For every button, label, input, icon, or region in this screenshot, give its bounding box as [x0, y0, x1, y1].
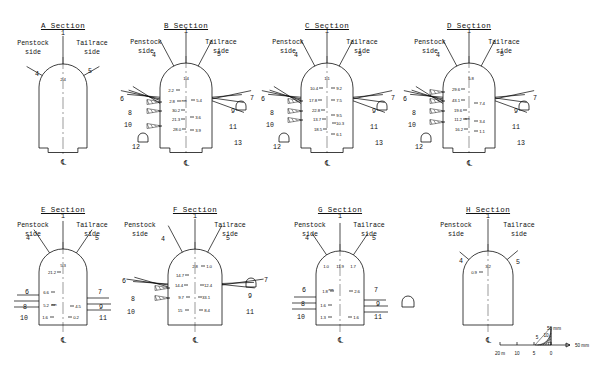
- scale-inner-label-0: 5: [536, 335, 539, 340]
- hatch-line: [548, 330, 551, 345]
- scale-right-label: 50 mm: [575, 343, 589, 348]
- scale-tick-label-1: 10: [514, 351, 519, 356]
- scale-top-label: 50 mm: [547, 326, 561, 331]
- scale-tick-label-3: 0: [550, 351, 553, 356]
- scale-tick-label-2: 5: [533, 351, 536, 356]
- scale-inner-label-1: 10: [543, 333, 548, 338]
- scale-bar-drawing: [0, 0, 598, 369]
- figure-sheet: A SectionPenstocksideTailraceside1452.4℄…: [0, 0, 598, 369]
- scale-tick-label-0: 20 m: [495, 351, 505, 356]
